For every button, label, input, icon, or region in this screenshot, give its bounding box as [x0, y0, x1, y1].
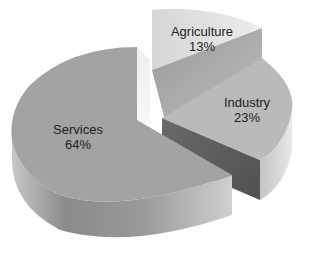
label-industry-value: 23%: [210, 110, 284, 125]
label-industry-name: Industry: [210, 95, 284, 110]
label-agriculture-value: 13%: [160, 39, 244, 54]
label-services: Services 64%: [45, 122, 111, 152]
label-services-value: 64%: [45, 137, 111, 152]
label-industry: Industry 23%: [210, 95, 284, 125]
label-agriculture-name: Agriculture: [160, 24, 244, 39]
label-services-name: Services: [45, 122, 111, 137]
label-agriculture: Agriculture 13%: [160, 24, 244, 54]
